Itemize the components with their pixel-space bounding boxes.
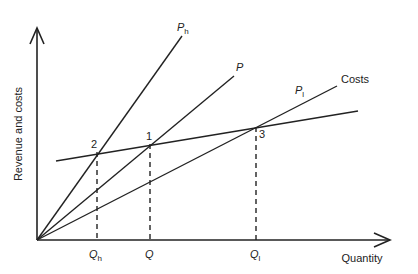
point-label-2: 2 [91,138,97,150]
line-label-costs: Costs [341,73,370,85]
y-axis-label: Revenue and costs [12,86,24,181]
revenue-costs-diagram: Revenue and costs Quantity PhPPlCosts 2Q… [0,0,418,274]
quantity-label-1: Q [145,248,154,260]
line-label-pl: Pl [295,84,304,99]
line-label-ph: Ph [177,21,189,36]
diagram-canvas: Revenue and costs Quantity PhPPlCosts 2Q… [0,0,418,274]
lines: PhPPlCosts [37,21,370,240]
quantity-label-2: Qh [89,248,102,263]
x-axis-label: Quantity [342,252,383,264]
line-label-p: P [236,61,244,73]
point-label-3: 3 [259,128,265,140]
line-pl [37,86,337,240]
intersection-points: 2Qh1Q3Ql [89,127,265,263]
axes: Revenue and costs Quantity [12,28,390,264]
quantity-label-3: Ql [250,248,261,263]
point-label-1: 1 [146,130,152,142]
